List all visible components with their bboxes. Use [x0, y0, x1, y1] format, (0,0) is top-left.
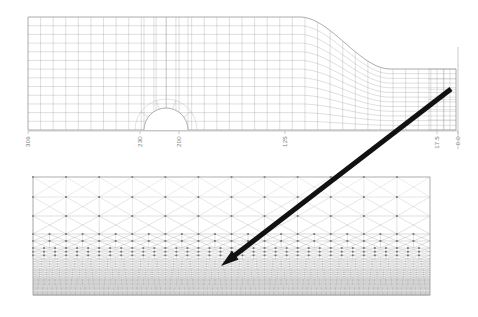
detail-mesh-node	[115, 240, 117, 242]
detail-mesh-node	[142, 251, 144, 253]
detail-mesh-node	[54, 254, 56, 256]
detail-mesh-node	[363, 215, 365, 217]
detail-mesh-node	[76, 254, 78, 256]
detail-mesh-node	[308, 251, 310, 253]
detail-mesh-node	[164, 247, 166, 249]
detail-mesh-node	[313, 233, 315, 235]
detail-mesh-node	[385, 251, 387, 253]
detail-mesh-node	[131, 251, 133, 253]
detail-mesh-node	[98, 196, 100, 198]
detail-mesh-node	[98, 251, 100, 253]
detail-mesh-node	[297, 215, 299, 217]
detail-mesh-node	[319, 247, 321, 249]
detail-mesh-node	[65, 251, 67, 253]
detail-mesh-node	[220, 247, 222, 249]
detail-mesh-node	[164, 233, 166, 235]
detail-mesh-node	[220, 254, 222, 256]
detail-mesh-node	[396, 254, 398, 256]
detail-mesh-node	[363, 240, 365, 242]
detail-mesh-node	[363, 251, 365, 253]
detail-mesh-node	[280, 233, 282, 235]
detail-mesh-node	[120, 251, 122, 253]
detail-mesh-node	[418, 247, 420, 249]
detail-mesh-node	[65, 240, 67, 242]
detail-mesh-node	[109, 247, 111, 249]
detail-mesh-node	[275, 251, 277, 253]
detail-mesh-node	[54, 251, 56, 253]
tunnel-slope-mesh	[28, 17, 456, 130]
detail-mesh-node	[98, 247, 100, 249]
detail-mesh-node	[418, 254, 420, 256]
detail-mesh-node	[175, 254, 177, 256]
detail-mesh-node	[379, 240, 381, 242]
detail-mesh-node	[98, 233, 100, 235]
detail-mesh-node	[242, 254, 244, 256]
detail-mesh-node	[120, 254, 122, 256]
detail-mesh-node	[131, 254, 133, 256]
figure-canvas: 30623020012517.50.0	[0, 0, 478, 317]
tunnel-radial-line	[156, 101, 159, 110]
detail-mesh-node	[297, 196, 299, 198]
detail-mesh-node	[87, 247, 89, 249]
detail-mesh-node	[330, 247, 332, 249]
detail-mesh-node	[286, 247, 288, 249]
detail-mesh-node	[330, 251, 332, 253]
detail-mesh-node	[385, 247, 387, 249]
detail-mesh-node	[148, 233, 150, 235]
detail-mesh-node	[280, 240, 282, 242]
detail-mesh-node	[396, 233, 398, 235]
detail-mesh-node	[385, 254, 387, 256]
detail-mesh-node	[148, 240, 150, 242]
detail-mesh-node	[131, 215, 133, 217]
detail-mesh-node	[374, 251, 376, 253]
detail-mesh-node	[396, 196, 398, 198]
axis-tick-label: 200	[175, 136, 182, 147]
detail-mesh-node	[275, 247, 277, 249]
detail-mesh-node	[209, 247, 211, 249]
detail-mesh-node	[407, 247, 409, 249]
detail-mesh-node	[153, 247, 155, 249]
detail-mesh-node	[186, 254, 188, 256]
tunnel-radial-line	[173, 101, 176, 110]
detail-mesh-node	[286, 254, 288, 256]
detail-mesh-node	[297, 233, 299, 235]
detail-mesh-node	[264, 240, 266, 242]
detail-mesh-node	[87, 254, 89, 256]
axis-tick-label: 230	[136, 136, 143, 147]
detail-mesh-node	[264, 247, 266, 249]
detail-mesh-node	[297, 247, 299, 249]
axis-tick-label: 17.5	[433, 136, 440, 149]
detail-mesh-node	[43, 251, 45, 253]
detail-mesh-node	[413, 240, 415, 242]
detail-mesh-node	[209, 251, 211, 253]
detail-mesh-node	[275, 254, 277, 256]
detail-mesh-node	[418, 251, 420, 253]
detail-mesh-node	[82, 240, 84, 242]
detail-mesh-node	[214, 233, 216, 235]
detail-mesh-node	[198, 196, 200, 198]
detail-mesh-node	[65, 233, 67, 235]
detail-mesh-node	[319, 251, 321, 253]
refined-triangulated-mesh-detail	[32, 176, 430, 295]
detail-mesh-node	[319, 254, 321, 256]
axis-tick-label: 306	[24, 136, 31, 147]
detail-mesh-node	[413, 233, 415, 235]
detail-mesh-node	[142, 247, 144, 249]
detail-mesh-node	[65, 196, 67, 198]
axis-tick-label: 125	[281, 136, 288, 147]
detail-mesh-node	[264, 215, 266, 217]
detail-mesh-node	[109, 251, 111, 253]
detail-mesh-node	[76, 251, 78, 253]
detail-mesh-node	[396, 215, 398, 217]
detail-mesh-node	[49, 240, 51, 242]
detail-mesh-node	[374, 247, 376, 249]
detail-mesh-node	[82, 233, 84, 235]
detail-mesh-node	[352, 247, 354, 249]
detail-mesh-node	[153, 251, 155, 253]
detail-mesh-node	[407, 251, 409, 253]
detail-mesh-node	[209, 254, 211, 256]
detail-mesh-node	[120, 247, 122, 249]
detail-mesh-node	[98, 254, 100, 256]
detail-mesh-node	[49, 233, 51, 235]
detail-mesh-node	[43, 247, 45, 249]
